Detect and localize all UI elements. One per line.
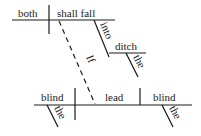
main-subject: both	[18, 7, 38, 19]
sentence-diagram: both shall fall into ditch the If blind …	[0, 0, 201, 136]
sub-subject: blind	[41, 91, 64, 103]
object-of-preposition: ditch	[115, 40, 137, 52]
connector: If	[84, 53, 98, 65]
main-verb: shall fall	[57, 7, 95, 19]
sub-object: blind	[153, 91, 176, 103]
sub-subject-article: the	[52, 103, 69, 121]
sub-verb: lead	[105, 91, 124, 103]
sub-object-article: the	[167, 103, 184, 121]
